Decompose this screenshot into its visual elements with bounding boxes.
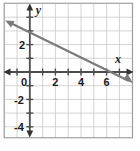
origin-label: 0 <box>21 76 27 88</box>
x-tick-label-6: 6 <box>104 76 110 88</box>
x-tick-label-4: 4 <box>78 76 85 88</box>
coordinate-plane-figure: x y 0 2 4 6 2 -2 -4 <box>0 0 140 151</box>
x-axis-label: x <box>114 52 121 66</box>
y-tick-label-neg4: -4 <box>14 121 25 133</box>
y-axis-label: y <box>34 3 42 17</box>
coordinate-plane-svg: x y 0 2 4 6 2 -2 -4 <box>0 0 140 151</box>
x-tick-label-2: 2 <box>52 76 58 88</box>
y-tick-label-2: 2 <box>19 39 25 51</box>
y-tick-label-neg2: -2 <box>14 94 24 106</box>
